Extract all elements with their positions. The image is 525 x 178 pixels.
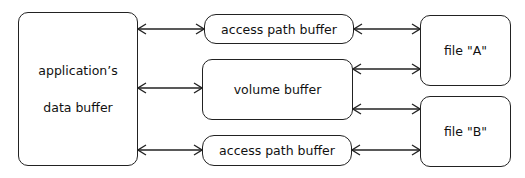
app-buffer-line1: application’s: [38, 63, 117, 78]
file-a-label: file "A": [444, 43, 487, 58]
access-path-buffer-top-label: access path buffer: [221, 22, 337, 37]
app-buffer-line2: data buffer: [43, 100, 112, 115]
access-path-buffer-top-node: access path buffer: [204, 14, 354, 44]
access-path-buffer-bottom-node: access path buffer: [202, 135, 352, 166]
volume-buffer-node: volume buffer: [202, 59, 353, 120]
volume-buffer-label: volume buffer: [234, 82, 322, 97]
application-data-buffer-node: application’s data buffer: [18, 12, 138, 166]
file-a-node: file "A": [420, 15, 511, 86]
file-b-node: file "B": [420, 96, 511, 167]
file-b-label: file "B": [444, 124, 487, 139]
access-path-buffer-bottom-label: access path buffer: [219, 143, 335, 158]
